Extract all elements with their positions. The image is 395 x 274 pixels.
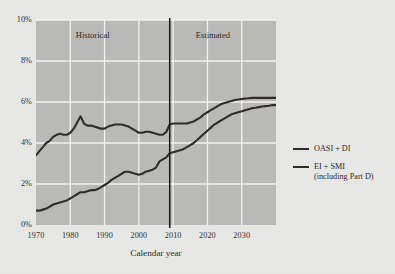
x-axis-title: Calendar year [36,248,276,258]
legend-label-oasi-di: OASI + DI [314,144,350,153]
y-tick-label: 6% [2,97,32,106]
x-tick-label: 2030 [222,231,262,240]
y-tick-label: 8% [2,56,32,65]
y-tick-label: 4% [2,138,32,147]
historical-region-label: Historical [76,30,110,40]
legend-item-oasi-di: OASI + DI [293,144,393,155]
y-tick-label: 2% [2,179,32,188]
legend-sublabel-ei-smi: (including Part D) [314,172,374,181]
y-tick-label: 0% [2,220,32,229]
legend-line-swatch-ei-smi [293,166,309,168]
y-tick-label: 10% [2,15,32,24]
estimated-region-label: Estimated [196,30,230,40]
chart-legend: OASI + DI EI + SMI (including Part D) [293,144,393,190]
legend-line-swatch-oasi-di [293,148,309,150]
legend-label-ei-smi: EI + SMI [314,162,345,171]
plot-area-background [36,20,276,225]
chart-figure: 0%2%4%6%8%10% 19701980199020002010202020… [0,0,395,274]
legend-item-ei-smi: EI + SMI (including Part D) [293,162,393,183]
